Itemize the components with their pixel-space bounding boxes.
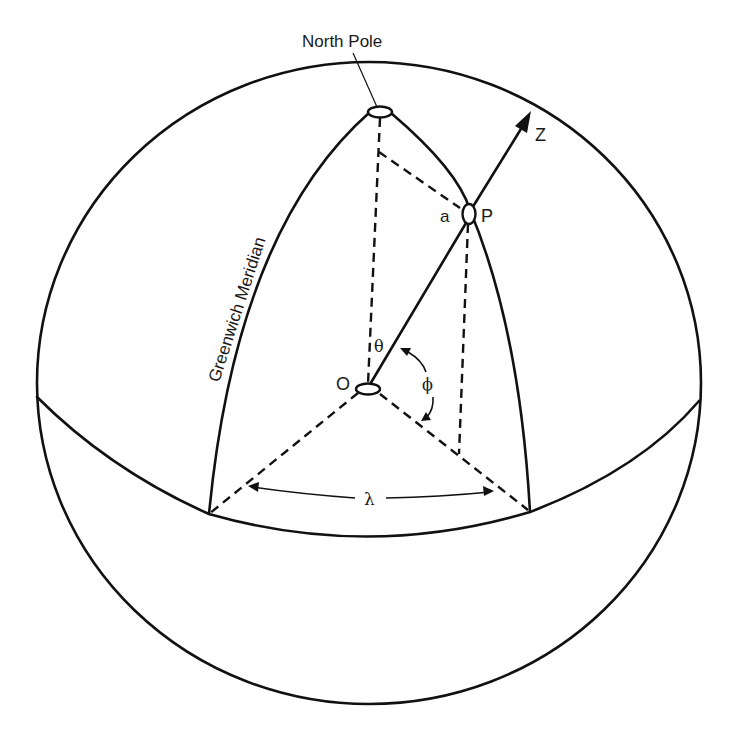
z-arrow-head-icon	[515, 111, 531, 133]
point-a-label: a	[440, 207, 450, 226]
phi-arc	[408, 352, 426, 372]
point-p-label: P	[481, 206, 493, 226]
lambda-arrow-head-right-icon	[483, 486, 494, 496]
p-projection-dashed	[459, 224, 468, 454]
sphere-diagram: North Pole Z P a O θ ϕ λ Greenwich Merid…	[0, 0, 737, 729]
origin-label: O	[336, 374, 350, 394]
z-axis-line	[474, 124, 524, 205]
lambda-arc-right	[386, 492, 490, 498]
lambda-label: λ	[364, 489, 375, 509]
equator	[37, 397, 699, 537]
greenwich-meridian-label: Greenwich Meridian	[205, 235, 270, 385]
theta-label: θ	[374, 337, 384, 356]
point-p-marker	[463, 204, 476, 224]
origin-marker	[356, 384, 380, 395]
z-axis-label: Z	[535, 125, 546, 145]
o-to-local-meridian-dashed	[380, 394, 528, 510]
pole-to-p-dashed	[379, 152, 460, 208]
lambda-arc-left	[252, 487, 355, 498]
lambda-arrow-head-left-icon	[248, 482, 259, 492]
phi-label: ϕ	[422, 375, 433, 394]
north-pole-label: North Pole	[302, 32, 382, 51]
radius-line	[369, 223, 466, 386]
north-pole-marker	[368, 107, 392, 118]
